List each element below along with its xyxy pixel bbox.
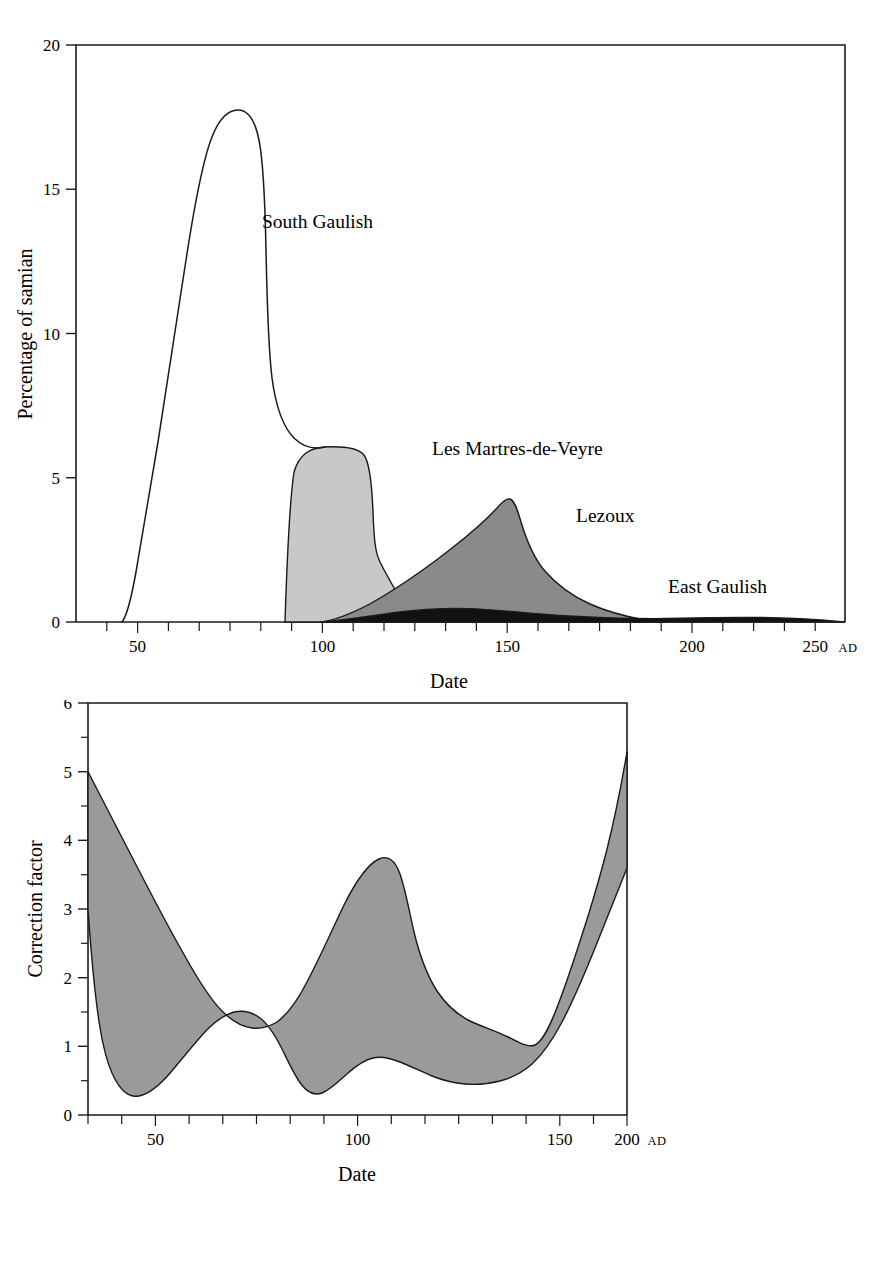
x-tick-label: 200 xyxy=(679,637,705,656)
x-tick-label: 250 xyxy=(802,637,828,656)
y-tick-label: 15 xyxy=(43,180,60,199)
era-suffix-label: AD xyxy=(648,1134,667,1148)
y-tick-label: 10 xyxy=(43,325,60,344)
plot-frame-chart1 xyxy=(76,45,845,622)
band-correction-factor xyxy=(88,752,627,1096)
x-tick-labels-chart2: 50 100 150 200 AD xyxy=(147,1130,667,1149)
x-tick-label: 50 xyxy=(129,637,146,656)
chart-samian-percentage: 0 5 10 15 20 xyxy=(0,0,879,700)
x-tick-label: 100 xyxy=(345,1130,371,1149)
series-label-les-martres: Les Martres-de-Veyre xyxy=(432,438,603,459)
y-tick-label: 1 xyxy=(64,1037,73,1056)
y-ticks-chart2: 0 1 2 3 4 5 6 xyxy=(64,700,89,1125)
x-tick-label: 200 xyxy=(614,1130,640,1149)
y-tick-label: 4 xyxy=(64,831,73,850)
y-ticks-chart1: 0 5 10 15 20 xyxy=(43,36,76,632)
x-axis-title-chart2: Date xyxy=(338,1163,376,1185)
y-tick-label: 2 xyxy=(64,969,73,988)
y-tick-label: 5 xyxy=(52,469,61,488)
y-tick-label: 3 xyxy=(64,900,73,919)
series-label-east-gaulish: East Gaulish xyxy=(668,576,767,597)
era-suffix-label: AD xyxy=(839,641,858,655)
chart-correction-factor: 0 1 2 3 4 5 6 xyxy=(0,700,879,1277)
y-tick-label: 20 xyxy=(43,36,60,55)
x-minor-ticks-chart2 xyxy=(88,1115,627,1126)
y-tick-label: 0 xyxy=(52,613,61,632)
y-tick-label: 0 xyxy=(64,1106,73,1125)
y-tick-label: 6 xyxy=(64,700,73,713)
x-minor-ticks-chart1 xyxy=(107,622,815,633)
x-tick-label: 150 xyxy=(547,1130,573,1149)
y-axis-title-chart2: Correction factor xyxy=(24,840,46,977)
x-tick-label: 150 xyxy=(494,637,520,656)
figure-root: 0 5 10 15 20 xyxy=(0,0,879,1277)
x-tick-label: 50 xyxy=(147,1130,164,1149)
x-tick-labels-chart1: 50 100 150 200 250 AD xyxy=(129,637,857,656)
x-tick-label: 100 xyxy=(310,637,336,656)
y-axis-title-chart1: Percentage of samian xyxy=(14,248,37,419)
x-axis-title-chart1: Date xyxy=(430,670,468,692)
series-label-south-gaulish: South Gaulish xyxy=(262,211,373,232)
y-tick-label: 5 xyxy=(64,763,73,782)
series-label-lezoux: Lezoux xyxy=(576,505,635,526)
